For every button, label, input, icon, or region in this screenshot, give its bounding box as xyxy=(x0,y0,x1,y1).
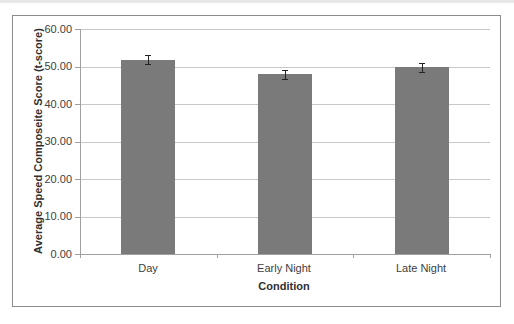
error-bar-cap xyxy=(145,55,151,56)
y-axis-title: Average Speed Composeite Score (t-score) xyxy=(32,28,44,254)
x-axis-title: Condition xyxy=(224,280,344,292)
error-bar-cap xyxy=(282,70,288,71)
bar-late-night xyxy=(395,67,449,254)
error-bar-cap xyxy=(145,64,151,65)
x-tick-mark xyxy=(490,254,491,258)
error-bar xyxy=(285,70,286,79)
error-bar xyxy=(148,55,149,64)
x-axis-line xyxy=(80,254,490,255)
top-strip xyxy=(0,0,514,3)
x-category-early-night: Early Night xyxy=(224,262,344,274)
bar-day xyxy=(121,60,175,254)
bar-early-night xyxy=(258,74,312,254)
error-bar-cap xyxy=(282,79,288,80)
error-bar-cap xyxy=(419,72,425,73)
error-bar-cap xyxy=(419,63,425,64)
gridline xyxy=(80,29,490,30)
y-axis-line xyxy=(80,29,81,254)
error-bar xyxy=(422,63,423,72)
x-category-late-night: Late Night xyxy=(361,262,481,274)
x-category-day: Day xyxy=(88,262,208,274)
